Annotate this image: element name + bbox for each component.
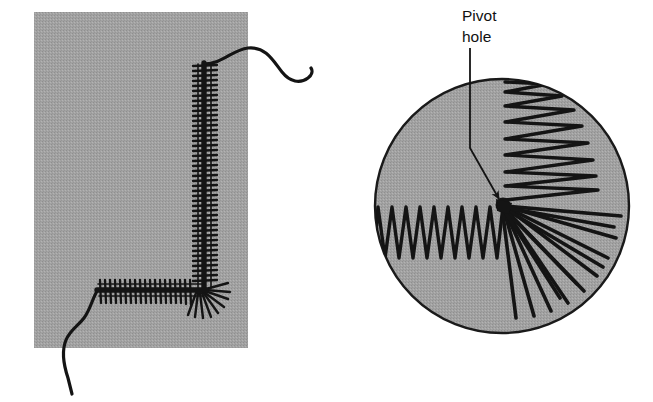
callout-text-layer: Pivot hole <box>0 0 653 402</box>
pivot-hole-label-line2: hole <box>462 28 491 45</box>
figure-container: Pivot hole <box>0 0 653 402</box>
pivot-hole-label-line1: Pivot <box>462 7 497 24</box>
